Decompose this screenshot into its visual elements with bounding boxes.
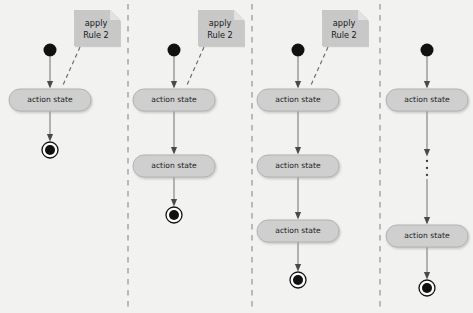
action-state-label: action state xyxy=(275,161,321,170)
action-state-label: action state xyxy=(275,95,321,104)
action-state-3[interactable]: action state xyxy=(386,225,468,247)
final-state-dot xyxy=(169,210,179,220)
action-state-1[interactable]: action state xyxy=(133,89,215,111)
action-state-1[interactable]: action state xyxy=(257,89,339,111)
note-label-line1: apply xyxy=(209,18,232,28)
action-state-label: action state xyxy=(404,231,450,240)
note-label-line1: apply xyxy=(333,18,356,28)
final-state-dot xyxy=(422,283,432,293)
note-label-line2: Rule 2 xyxy=(207,30,233,40)
note-apply-rule[interactable]: applyRule 2 xyxy=(322,10,368,46)
initial-state[interactable] xyxy=(168,44,181,57)
action-state-3[interactable]: action state xyxy=(257,220,339,242)
note-label-line2: Rule 2 xyxy=(83,30,109,40)
final-state[interactable] xyxy=(166,207,182,223)
note-apply-rule[interactable]: applyRule 2 xyxy=(198,10,244,46)
final-state[interactable] xyxy=(290,272,306,288)
ellipsis-dot xyxy=(426,160,428,162)
note-label-line2: Rule 2 xyxy=(331,30,357,40)
note-label-line1: apply xyxy=(85,18,108,28)
action-state-label: action state xyxy=(151,95,197,104)
diagram-background xyxy=(0,0,473,313)
action-state-label: action state xyxy=(275,226,321,235)
action-state-2[interactable]: action state xyxy=(257,155,339,177)
initial-state-dot xyxy=(292,44,305,57)
ellipsis-dot xyxy=(426,167,428,169)
initial-state[interactable] xyxy=(292,44,305,57)
initial-state[interactable] xyxy=(421,44,434,57)
final-state[interactable] xyxy=(42,142,58,158)
initial-state-dot xyxy=(421,44,434,57)
action-state-label: action state xyxy=(404,95,450,104)
action-state-label: action state xyxy=(151,161,197,170)
final-state[interactable] xyxy=(419,280,435,296)
initial-state[interactable] xyxy=(44,44,57,57)
final-state-dot xyxy=(45,145,55,155)
ellipsis-dot xyxy=(426,174,428,176)
note-apply-rule[interactable]: applyRule 2 xyxy=(74,10,120,46)
action-state-1[interactable]: action state xyxy=(386,89,468,111)
activity-diagram-svg: action stateapplyRule 2action stateactio… xyxy=(0,0,473,313)
action-state-label: action state xyxy=(27,95,73,104)
final-state-dot xyxy=(293,275,303,285)
action-state-2[interactable]: action state xyxy=(133,155,215,177)
initial-state-dot xyxy=(44,44,57,57)
action-state-1[interactable]: action state xyxy=(9,89,91,111)
initial-state-dot xyxy=(168,44,181,57)
diagram-canvas: action stateapplyRule 2action stateactio… xyxy=(0,0,473,313)
